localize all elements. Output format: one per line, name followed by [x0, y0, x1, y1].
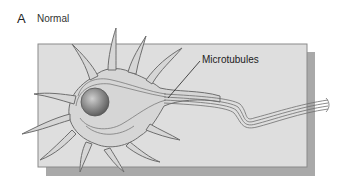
neuron-diagram — [0, 0, 342, 192]
microtubules-label: Microtubules — [202, 54, 259, 65]
nucleus — [81, 88, 109, 116]
